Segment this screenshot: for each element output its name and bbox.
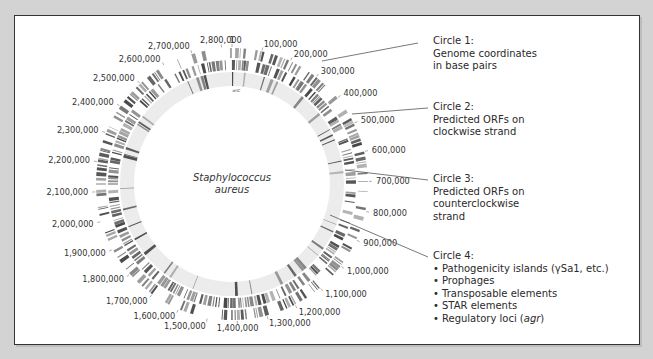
legend-item-transposable-elements: •Transposable elements xyxy=(433,288,609,301)
legend-circle-2: Circle 2: Predicted ORFs on clockwise st… xyxy=(433,101,525,139)
tick-mark xyxy=(109,250,112,251)
coordinate-label: 2,600,000 xyxy=(119,54,161,64)
tick-mark xyxy=(291,58,292,61)
legend-item-star-elements: •STAR elements xyxy=(433,300,609,313)
tick-mark xyxy=(150,295,152,297)
legend-circle-4: Circle 4: •Pathogenicity islands (γSa1, … xyxy=(433,250,609,325)
species-epithet: aureus xyxy=(172,184,292,196)
species-genus: Staphylococcus xyxy=(172,172,292,184)
legend-circle-3-desc-3: strand xyxy=(433,211,525,224)
legend-circle-3: Circle 3: Predicted ORFs on counterclock… xyxy=(433,173,525,223)
tick-mark xyxy=(102,131,105,132)
legend-circle-4-title: Circle 4: xyxy=(433,250,609,263)
legend-circle-3-title: Circle 3: xyxy=(433,173,525,186)
tick-mark xyxy=(162,63,163,66)
coordinate-label: 1,400,000 xyxy=(217,323,259,333)
tick-mark xyxy=(177,310,178,313)
coordinate-label: 2,800,000 xyxy=(200,35,242,45)
tick-mark xyxy=(191,50,192,53)
tick-mark xyxy=(117,104,119,106)
coordinate-label: 200,000 xyxy=(294,49,328,59)
tick-mark xyxy=(97,222,100,223)
tick-mark xyxy=(137,81,139,83)
coordinate-label: 700,000 xyxy=(376,176,410,186)
legend-circle-3-desc-2: counterclockwise xyxy=(433,198,525,211)
legend-circle-1: Circle 1: Genome coordinates in base pai… xyxy=(433,35,537,73)
coordinate-label: 400,000 xyxy=(344,88,378,98)
tick-mark xyxy=(365,151,368,152)
legend-circle-2-desc-2: clockwise strand xyxy=(433,126,525,139)
legend-circle-2-title: Circle 2: xyxy=(433,101,525,114)
tick-mark xyxy=(357,240,360,241)
coordinate-label: 1,200,000 xyxy=(299,307,341,317)
pointer-line-circle2 xyxy=(352,108,428,114)
tick-mark xyxy=(267,316,268,319)
coordinate-label: 1,500,000 xyxy=(164,321,206,331)
tick-mark xyxy=(341,266,343,268)
legend-circle-1-desc-1: Genome coordinates xyxy=(433,48,537,61)
coordinate-label: 2,700,000 xyxy=(148,41,190,51)
coordinate-label: 300,000 xyxy=(321,66,355,76)
tick-mark xyxy=(127,275,129,277)
pointer-line-circle1 xyxy=(322,43,418,61)
coordinate-label: 2,000,000 xyxy=(52,219,94,229)
coordinate-label: 600,000 xyxy=(372,145,406,155)
legend-circle-2-desc-1: Predicted ORFs on xyxy=(433,114,525,127)
species-label: Staphylococcus aureus xyxy=(172,172,292,196)
tick-mark xyxy=(317,74,319,76)
tick-mark xyxy=(366,212,369,213)
legend-circle-1-desc-2: in base pairs xyxy=(433,60,537,73)
pointer-line-circle4 xyxy=(330,215,428,257)
legend-circle-1-title: Circle 1: xyxy=(433,35,537,48)
legend-item-prophages: •Prophages xyxy=(433,275,609,288)
coordinate-label: 1,000,000 xyxy=(347,266,389,276)
legend-item-pathogenicity-islands: •Pathogenicity islands (γSa1, etc.) xyxy=(433,263,609,276)
coordinate-label: 100,000 xyxy=(264,39,298,49)
coordinate-label: 1,800,000 xyxy=(82,274,124,284)
legend-item-regulatory-loci: •Regulatory loci (agr) xyxy=(433,313,609,326)
coordinate-label: 2,200,000 xyxy=(48,155,90,165)
coordinate-label: 2,100,000 xyxy=(47,187,89,197)
tick-mark xyxy=(338,96,340,98)
coordinate-label: 2,300,000 xyxy=(57,125,99,135)
tick-mark xyxy=(295,305,296,308)
legend-circle-4-list: •Pathogenicity islands (γSa1, etc.) •Pro… xyxy=(433,263,609,326)
tick-mark xyxy=(355,122,358,123)
coordinate-label: 900,000 xyxy=(363,238,397,248)
coordinate-label: 1,600,000 xyxy=(134,311,176,321)
coordinate-label: 500,000 xyxy=(361,115,395,125)
tick-mark xyxy=(206,319,207,322)
coordinate-label: 1,300,000 xyxy=(269,318,311,328)
coordinate-label: 1,100,000 xyxy=(325,289,367,299)
coordinate-label: 1,700,000 xyxy=(106,296,148,306)
coordinate-label: 1,900,000 xyxy=(64,248,106,258)
coordinate-label: 2,400,000 xyxy=(72,97,114,107)
legend-circle-3-desc-1: Predicted ORFs on xyxy=(433,186,525,199)
coordinate-label: 800,000 xyxy=(373,208,407,218)
oric-marker-label: oriC xyxy=(232,88,240,93)
tick-mark xyxy=(321,288,323,290)
coordinate-label: 2,500,000 xyxy=(93,73,135,83)
